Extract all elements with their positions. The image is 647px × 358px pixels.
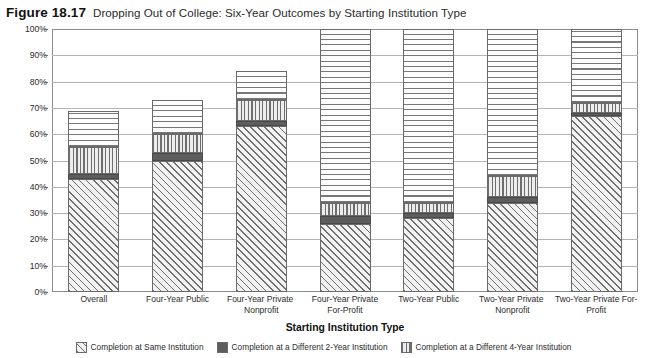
- bar-segment[interactable]: [571, 116, 622, 292]
- y-tick-mark: [44, 55, 48, 56]
- bar-stack[interactable]: [68, 29, 119, 292]
- figure-title-bar: Figure 18.17 Dropping Out of College: Si…: [6, 5, 642, 23]
- bar-segment[interactable]: [236, 121, 287, 126]
- legend-label: Completion at a Different 4-Year Institu…: [416, 342, 572, 352]
- y-tick-mark: [44, 187, 48, 188]
- bar-segment[interactable]: [68, 179, 119, 292]
- y-tick-label: 90%: [3, 50, 47, 60]
- bar-stack[interactable]: [403, 29, 454, 292]
- legend-item[interactable]: Completion at Same Institution: [76, 342, 204, 353]
- y-axis-ticks: 0%10%20%30%40%50%60%70%80%90%100%: [0, 29, 47, 292]
- legend-label: Completion at a Different 2-Year Institu…: [232, 342, 388, 352]
- y-tick-mark: [44, 266, 48, 267]
- legend-swatch-diagonal-hatch-icon: [76, 342, 87, 353]
- x-category-label: Two-Year Private ​Nonprofit: [471, 294, 555, 315]
- bar-segment[interactable]: [320, 29, 371, 203]
- y-tick-label: 10%: [3, 261, 47, 271]
- x-category-label: Two-Year Public: [387, 294, 471, 305]
- x-category-label: Four-Year Private ​Nonprofit: [219, 294, 303, 315]
- y-tick-label: 100%: [3, 24, 47, 34]
- bar-segment[interactable]: [487, 203, 538, 292]
- y-tick-mark: [44, 108, 48, 109]
- y-tick-label: 0%: [3, 287, 47, 297]
- chart-legend: Completion at Same InstitutionCompletion…: [0, 339, 647, 355]
- y-tick-label: 80%: [3, 77, 47, 87]
- bar-stack[interactable]: [152, 29, 203, 292]
- y-tick-mark: [44, 82, 48, 83]
- bar-segment[interactable]: [236, 100, 287, 121]
- legend-item[interactable]: Completion at a Different 4-Year Institu…: [401, 342, 572, 353]
- legend-item[interactable]: Completion at a Different 2-Year Institu…: [217, 342, 388, 353]
- bar-segment[interactable]: [487, 197, 538, 202]
- y-tick-mark: [44, 134, 48, 135]
- bar-segment[interactable]: [236, 71, 287, 100]
- y-tick-mark: [44, 29, 48, 30]
- bar-segment[interactable]: [571, 103, 622, 114]
- bar-segment[interactable]: [571, 113, 622, 116]
- bar-segment[interactable]: [571, 29, 622, 103]
- bar-segment[interactable]: [320, 224, 371, 292]
- y-tick-label: 30%: [3, 208, 47, 218]
- bar-segment[interactable]: [487, 176, 538, 197]
- x-category-label: Overall: [52, 294, 136, 305]
- bar-segment[interactable]: [152, 161, 203, 293]
- bar-segment[interactable]: [152, 153, 203, 161]
- plot-area: [52, 29, 638, 292]
- bar-segment[interactable]: [68, 111, 119, 148]
- bar-stack[interactable]: [236, 29, 287, 292]
- x-category-label: Two-Year Private For-Profit: [554, 294, 638, 315]
- legend-swatch-vertical-lines-icon: [401, 342, 412, 353]
- bar-segment[interactable]: [152, 134, 203, 152]
- bar-stack[interactable]: [320, 29, 371, 292]
- bar-segment[interactable]: [68, 147, 119, 173]
- bar-segment[interactable]: [152, 100, 203, 134]
- bar-stack[interactable]: [487, 29, 538, 292]
- y-tick-label: 20%: [3, 234, 47, 244]
- x-axis-label: Starting Institution Type: [52, 322, 638, 333]
- bar-segment[interactable]: [403, 213, 454, 218]
- figure-number: Figure 18.17: [6, 5, 86, 20]
- bar-segment[interactable]: [320, 203, 371, 216]
- y-tick-label: 40%: [3, 182, 47, 192]
- x-axis-categories: OverallFour-Year PublicFour-Year Private…: [52, 294, 638, 324]
- x-category-label: Four-Year Private For-Profit: [303, 294, 387, 315]
- y-tick-label: 50%: [3, 156, 47, 166]
- bar-segment[interactable]: [320, 216, 371, 224]
- bar-segment[interactable]: [236, 126, 287, 292]
- bar-segment[interactable]: [403, 203, 454, 214]
- bar-stack[interactable]: [571, 29, 622, 292]
- bar-segment[interactable]: [403, 29, 454, 203]
- y-tick-mark: [44, 239, 48, 240]
- legend-swatch-solid-gray-icon: [217, 342, 228, 353]
- y-tick-mark: [44, 292, 48, 293]
- y-tick-label: 60%: [3, 129, 47, 139]
- x-category-label: Four-Year Public: [136, 294, 220, 305]
- y-tick-label: 70%: [3, 103, 47, 113]
- legend-label: Completion at Same Institution: [91, 342, 204, 352]
- figure-caption: Dropping Out of College: Six-Year Outcom…: [93, 6, 466, 19]
- bar-segment[interactable]: [487, 29, 538, 176]
- bar-segment[interactable]: [68, 174, 119, 179]
- bar-segment[interactable]: [403, 218, 454, 292]
- y-tick-mark: [44, 161, 48, 162]
- y-tick-mark: [44, 213, 48, 214]
